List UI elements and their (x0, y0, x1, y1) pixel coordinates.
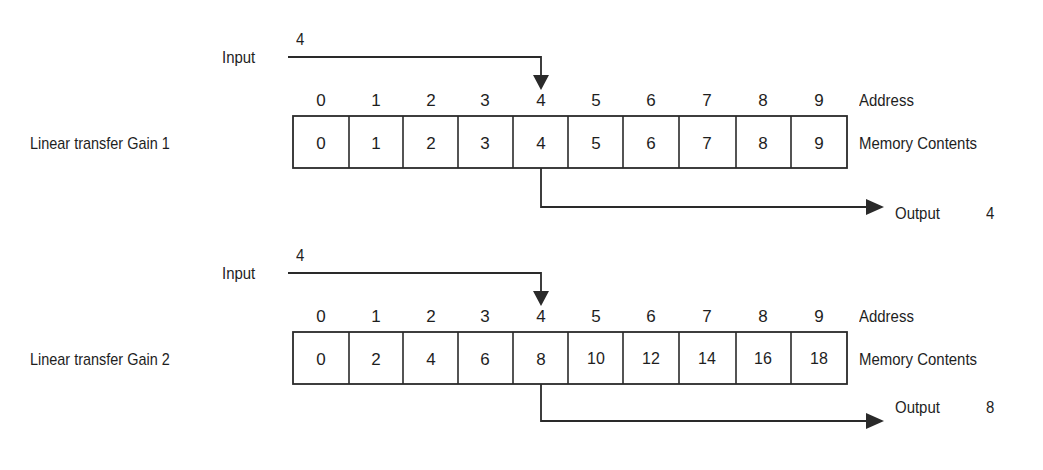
address-5: 5 (581, 308, 611, 325)
diagram-title: Linear transfer Gain 2 (30, 351, 170, 368)
address-label: Address (859, 308, 914, 325)
memory-cell-9: 18 (799, 351, 839, 367)
address-0: 0 (306, 308, 336, 325)
address-6: 6 (636, 92, 666, 109)
memory-contents-label: Memory Contents (859, 351, 977, 368)
address-3: 3 (470, 92, 500, 109)
input-arrow-line (288, 57, 541, 80)
diagram-lines (0, 0, 1043, 235)
address-2: 2 (416, 308, 446, 325)
memory-cell-7: 14 (687, 351, 727, 367)
address-2: 2 (416, 92, 446, 109)
memory-cell-6: 12 (631, 351, 671, 367)
address-5: 5 (581, 92, 611, 109)
address-7: 7 (692, 308, 722, 325)
address-7: 7 (692, 92, 722, 109)
input-arrow-head-icon (533, 291, 549, 306)
address-1: 1 (361, 308, 391, 325)
memory-cell-2: 4 (411, 351, 451, 368)
address-0: 0 (306, 92, 336, 109)
memory-cell-5: 5 (576, 135, 616, 152)
memory-cell-7: 7 (687, 135, 727, 152)
memory-cell-3: 3 (465, 135, 505, 152)
diagram-title: Linear transfer Gain 1 (30, 135, 170, 152)
address-3: 3 (470, 308, 500, 325)
diagram-lines (0, 216, 1043, 451)
memory-cell-3: 6 (465, 351, 505, 368)
lookup-table-diagram-gain-2: 4 Input 0 1 2 3 4 5 6 7 8 9 Address Line… (0, 216, 1043, 451)
input-value: 4 (296, 31, 304, 48)
address-4: 4 (526, 92, 556, 109)
input-label: Input (222, 265, 255, 282)
address-4: 4 (526, 308, 556, 325)
output-arrow-line (541, 384, 872, 421)
output-arrow-line (541, 168, 872, 207)
memory-cell-1: 2 (356, 351, 396, 368)
address-1: 1 (361, 92, 391, 109)
input-arrow-head-icon (533, 75, 549, 90)
output-value: 8 (986, 399, 994, 416)
address-9: 9 (804, 308, 834, 325)
output-label: Output (895, 399, 940, 416)
address-9: 9 (804, 92, 834, 109)
memory-cell-8: 8 (743, 135, 783, 152)
lookup-table-diagram-gain-1: 4 Input 0 1 2 3 4 5 6 7 8 9 Address Line… (0, 0, 1043, 235)
output-arrow-head-icon (866, 199, 884, 215)
memory-cell-0: 0 (301, 351, 341, 368)
address-6: 6 (636, 308, 666, 325)
memory-contents-label: Memory Contents (859, 135, 977, 152)
memory-cell-4: 4 (521, 135, 561, 152)
input-arrow-line (288, 273, 541, 296)
input-label: Input (222, 49, 255, 66)
memory-cell-9: 9 (799, 135, 839, 152)
memory-cell-6: 6 (631, 135, 671, 152)
memory-cell-4: 8 (521, 351, 561, 368)
address-label: Address (859, 92, 914, 109)
memory-cell-5: 10 (576, 351, 616, 367)
memory-cell-8: 16 (743, 351, 783, 367)
output-arrow-head-icon (866, 413, 884, 429)
address-8: 8 (748, 92, 778, 109)
address-8: 8 (748, 308, 778, 325)
memory-cell-1: 1 (356, 135, 396, 152)
memory-cell-0: 0 (301, 135, 341, 152)
memory-cell-2: 2 (411, 135, 451, 152)
input-value: 4 (296, 247, 304, 264)
